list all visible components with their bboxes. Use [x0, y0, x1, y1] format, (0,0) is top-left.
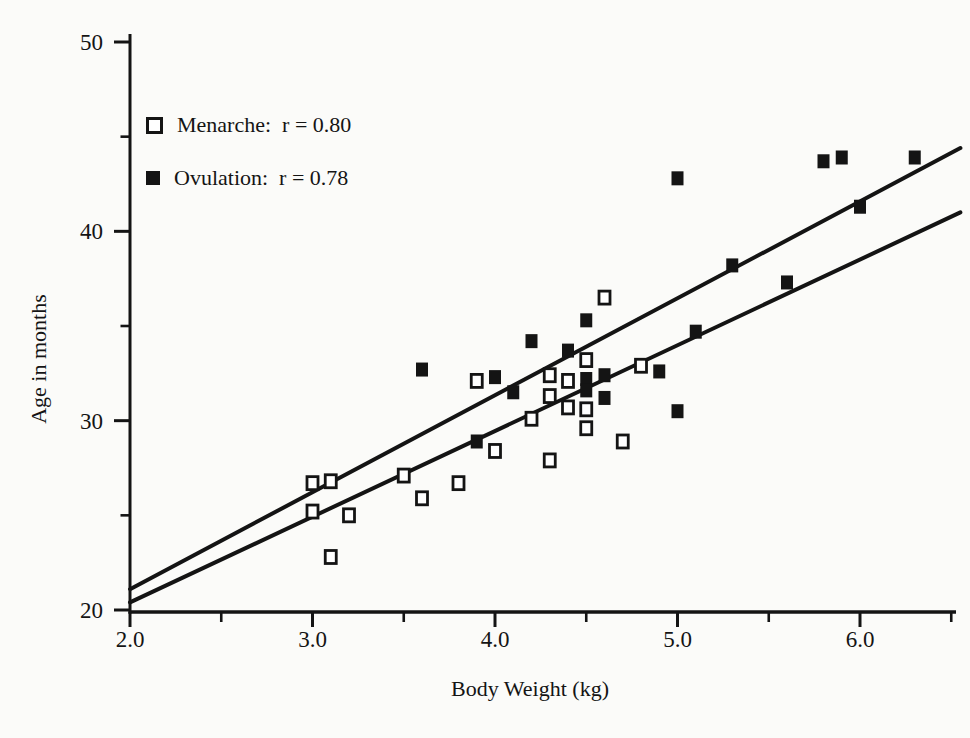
x-tick-label: 5.0	[663, 627, 692, 652]
data-point-ovulation	[818, 154, 830, 168]
data-point-menarche	[617, 435, 628, 448]
x-axis-title: Body Weight (kg)	[380, 676, 680, 702]
data-point-menarche	[344, 509, 355, 522]
data-point-menarche	[581, 354, 592, 367]
data-point-menarche	[526, 412, 537, 425]
data-point-menarche	[599, 291, 610, 304]
legend: Menarche: r = 0.80 Ovulation: r = 0.78	[146, 112, 351, 191]
data-point-ovulation	[526, 334, 538, 348]
data-point-menarche	[544, 369, 555, 382]
data-point-menarche	[563, 374, 574, 387]
data-point-ovulation	[562, 344, 574, 358]
data-point-menarche	[325, 550, 336, 563]
y-tick-label: 40	[80, 219, 103, 244]
data-point-menarche	[581, 422, 592, 435]
data-point-menarche	[453, 477, 464, 490]
data-point-ovulation	[489, 370, 501, 384]
filled-square-marker-icon	[146, 171, 160, 185]
regression-line-menarche	[130, 212, 960, 602]
legend-label-menarche: Menarche: r = 0.80	[177, 112, 351, 138]
y-tick-label: 20	[80, 598, 103, 623]
data-point-ovulation	[672, 404, 684, 418]
open-square-marker-icon	[146, 117, 163, 134]
data-point-menarche	[325, 475, 336, 488]
data-point-menarche	[544, 454, 555, 467]
data-point-menarche	[471, 374, 482, 387]
data-point-menarche	[636, 359, 647, 372]
data-point-ovulation	[726, 258, 738, 272]
data-point-ovulation	[580, 313, 592, 327]
data-point-ovulation	[653, 364, 665, 378]
data-point-ovulation	[599, 368, 611, 382]
data-point-menarche	[563, 401, 574, 414]
data-point-ovulation	[507, 385, 519, 399]
x-tick-label: 4.0	[481, 627, 510, 652]
data-point-menarche	[307, 505, 318, 518]
data-point-ovulation	[416, 363, 428, 377]
data-point-ovulation	[471, 434, 483, 448]
x-tick-label: 2.0	[116, 627, 145, 652]
legend-label-ovulation: Ovulation: r = 0.78	[174, 165, 348, 191]
legend-item-menarche: Menarche: r = 0.80	[146, 112, 351, 138]
data-point-ovulation	[854, 200, 866, 214]
y-axis-title: Age in months	[26, 254, 52, 464]
y-tick-label: 30	[80, 409, 103, 434]
data-point-menarche	[398, 469, 409, 482]
data-point-ovulation	[836, 150, 848, 164]
data-point-menarche	[307, 477, 318, 490]
data-point-menarche	[490, 444, 501, 457]
data-point-ovulation	[690, 325, 702, 339]
data-point-menarche	[581, 403, 592, 416]
x-tick-label: 3.0	[298, 627, 327, 652]
data-point-ovulation	[580, 383, 592, 397]
x-tick-label: 6.0	[846, 627, 875, 652]
data-point-menarche	[544, 390, 555, 403]
data-point-ovulation	[672, 171, 684, 185]
data-point-ovulation	[599, 391, 611, 405]
data-point-ovulation	[909, 150, 921, 164]
scatter-plot-figure: 203040502.03.04.05.06.0 Menarche: r = 0.…	[0, 0, 970, 738]
data-point-menarche	[417, 492, 428, 505]
data-point-ovulation	[781, 275, 793, 289]
legend-item-ovulation: Ovulation: r = 0.78	[146, 165, 351, 191]
y-tick-label: 50	[80, 30, 103, 55]
chart-canvas: 203040502.03.04.05.06.0	[0, 0, 970, 738]
